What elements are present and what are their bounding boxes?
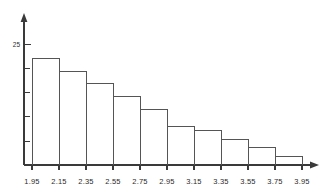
y-axis-arrow-icon (21, 13, 28, 22)
histogram-bar (221, 139, 248, 165)
x-tick-label: 2.75 (132, 177, 147, 186)
x-tick-label: 1.95 (24, 177, 39, 186)
histogram-bar (86, 84, 113, 165)
histogram-bar (167, 127, 194, 165)
histogram-bar (32, 58, 59, 165)
histogram-bar (194, 131, 221, 165)
x-tick-label: 2.55 (105, 177, 120, 186)
histogram-bar (248, 148, 275, 165)
histogram-bar (59, 71, 86, 165)
y-tick-label: 25 (13, 41, 21, 48)
x-axis-arrow-icon (310, 162, 319, 169)
histogram-figure: ▪▪▪ 25 1.95 (0, 0, 330, 195)
y-axis: 25 (13, 13, 31, 165)
x-tick-label: 2.35 (78, 177, 93, 186)
x-tick-label: 2.95 (159, 177, 174, 186)
x-tick-label: 3.95 (294, 177, 309, 186)
bars-group (32, 58, 302, 165)
histogram-bar (140, 110, 167, 165)
x-axis: 1.95 2.15 2.35 2.55 2.75 2.95 3.15 3.35 … (24, 162, 319, 186)
histogram-plot: 25 1.95 2.15 2.35 2.55 2.75 2.95 3.15 3.… (0, 0, 330, 195)
histogram-bar (113, 97, 140, 165)
x-tick-label: 3.35 (213, 177, 228, 186)
x-tick-label: 3.75 (267, 177, 282, 186)
x-tick-label: 3.15 (186, 177, 201, 186)
x-tick-label: 3.55 (240, 177, 255, 186)
histogram-bar (275, 156, 302, 165)
x-tick-label: 2.15 (51, 177, 66, 186)
